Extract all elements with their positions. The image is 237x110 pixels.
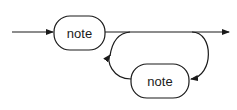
loop-return-path — [191, 32, 208, 79]
node-note-top: note — [54, 16, 105, 50]
node-note-loop: note — [131, 64, 189, 98]
syntax-diagram: note note — [0, 0, 237, 110]
loop-back-path — [109, 55, 131, 79]
node-label: note — [67, 26, 92, 41]
node-label: note — [147, 74, 172, 89]
